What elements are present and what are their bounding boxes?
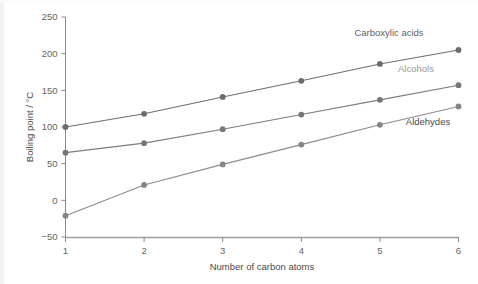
line-chart-svg: −50050100150200250 123456 Carboxylic aci… xyxy=(0,0,478,284)
x-tick-label: 6 xyxy=(456,245,461,256)
series-line-carboxylic-acids xyxy=(66,50,459,127)
data-point-carboxylic-acids-c2 xyxy=(141,111,147,117)
data-point-carboxylic-acids-c5 xyxy=(377,61,383,67)
data-point-alcohols-c3 xyxy=(220,126,226,132)
data-point-alcohols-c4 xyxy=(298,112,304,118)
data-point-aldehydes-c3 xyxy=(220,162,226,168)
x-tick-label: 2 xyxy=(141,245,146,256)
x-axis-tick-labels: 123456 xyxy=(63,245,461,256)
data-point-alcohols-c2 xyxy=(141,140,147,146)
data-point-aldehydes-c5 xyxy=(377,122,383,128)
x-axis-title: Number of carbon atoms xyxy=(210,261,315,272)
y-tick-label: 200 xyxy=(42,48,58,59)
x-tick-label: 5 xyxy=(377,245,382,256)
data-point-alcohols-c5 xyxy=(377,97,383,103)
data-point-carboxylic-acids-c3 xyxy=(220,94,226,100)
data-point-carboxylic-acids-c4 xyxy=(298,78,304,84)
x-tick-label: 1 xyxy=(63,245,68,256)
series-line-alcohols xyxy=(66,85,459,152)
data-point-aldehydes-c4 xyxy=(298,142,304,148)
data-point-aldehydes-c6 xyxy=(456,104,462,110)
series-label-carboxylic-acids: Carboxylic acids xyxy=(354,27,423,38)
y-tick-label: 50 xyxy=(47,158,58,169)
y-tick-label: 250 xyxy=(42,11,58,22)
y-axis-title: Boiling point / °C xyxy=(24,92,35,162)
y-tick-label: 0 xyxy=(52,195,57,206)
series-line-aldehydes xyxy=(66,106,459,215)
x-tick-label: 4 xyxy=(299,245,304,256)
y-tick-label: 100 xyxy=(42,121,58,132)
x-tick-label: 3 xyxy=(220,245,225,256)
y-tick-label: 150 xyxy=(42,85,58,96)
y-tick-label: −50 xyxy=(41,231,57,242)
data-point-alcohols-c1 xyxy=(63,150,69,156)
series-lines-group xyxy=(66,50,459,216)
data-point-carboxylic-acids-c1 xyxy=(63,124,69,130)
data-point-aldehydes-c1 xyxy=(63,213,69,219)
chart-container: −50050100150200250 123456 Carboxylic aci… xyxy=(0,0,478,284)
series-label-alcohols: Alcohols xyxy=(398,63,434,74)
series-label-aldehydes: Aldehydes xyxy=(406,116,451,127)
y-axis-tick-labels: −50050100150200250 xyxy=(41,11,57,242)
data-point-carboxylic-acids-c6 xyxy=(456,47,462,53)
data-point-alcohols-c6 xyxy=(456,82,462,88)
data-point-aldehydes-c2 xyxy=(141,182,147,188)
